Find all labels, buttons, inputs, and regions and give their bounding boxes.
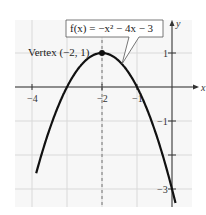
- vertex-point: [99, 50, 105, 56]
- function-label: f(x) = −x² − 4x − 3: [70, 22, 154, 35]
- x-axis-arrow-icon: [193, 85, 199, 90]
- vertex-label: Vertex (−2, 1): [28, 46, 90, 59]
- y-tick-label: −1: [157, 116, 168, 127]
- y-tick-label: −3: [157, 184, 168, 195]
- y-axis-label: y: [175, 18, 181, 29]
- x-tick-label: −4: [27, 93, 38, 104]
- y-tick-label: 1: [163, 48, 168, 59]
- parabola-chart: xy−4−2−11−1−3Vertex (−2, 1)f(x) = −x² − …: [0, 0, 206, 215]
- x-tick-label: −2: [97, 93, 108, 104]
- x-axis-label: x: [200, 82, 206, 93]
